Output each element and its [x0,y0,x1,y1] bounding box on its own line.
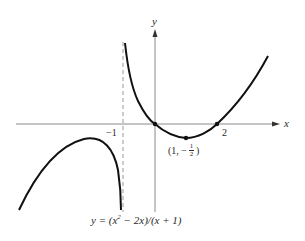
point-label-close: ) [196,146,199,156]
fraction-numerator: 1 [190,143,194,150]
minimum-point-label: (1, − 1 2 ) [168,143,199,158]
x-axis [16,122,280,127]
equation-suffix: − 2x)/(x + 1) [121,214,182,226]
fraction-denominator: 2 [190,151,194,158]
tick-label-neg1: −1 [106,128,117,138]
fraction-one-half: 1 2 [189,143,194,158]
y-axis-label: y [152,16,157,27]
origin-point [153,122,157,126]
x-axis-label: x [284,118,289,129]
curve-left-branch [19,138,121,210]
tick-label-2: 2 [222,128,227,138]
equation-prefix: y = (x [91,214,117,226]
point-label-open: (1, − [168,146,187,156]
function-equation-caption: y = (x2 − 2x)/(x + 1) [91,214,182,226]
minimum-point [184,136,188,140]
root-point-2 [215,122,219,126]
x-axis-arrow-icon [272,122,280,127]
function-graph [0,0,305,241]
y-axis-arrow-icon [153,29,158,37]
y-axis [153,29,158,212]
